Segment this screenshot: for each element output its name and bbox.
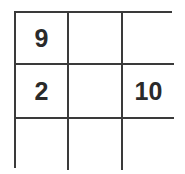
cell-r2c3[interactable]: 10 xyxy=(123,65,174,117)
cell-r3c1[interactable] xyxy=(16,119,67,170)
cell-r2c1[interactable]: 2 xyxy=(16,65,67,117)
cell-r2c2[interactable] xyxy=(69,65,121,117)
cell-r1c1[interactable]: 9 xyxy=(16,13,67,63)
cell-r1c2[interactable] xyxy=(69,13,121,63)
cell-r3c3[interactable] xyxy=(123,119,174,170)
puzzle-grid: 9 2 10 xyxy=(14,11,172,168)
cell-r1c3[interactable] xyxy=(123,13,174,63)
cell-r3c2[interactable] xyxy=(69,119,121,170)
